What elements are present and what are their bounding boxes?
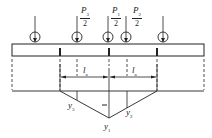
projection-lines [12, 59, 204, 90]
span-label-la-right: la [132, 66, 137, 77]
ordinate-label-y1: y1 [104, 122, 111, 133]
span-label-la-left: la [83, 66, 88, 77]
ordinate-label-y3: y3 [68, 101, 75, 112]
load-arrow-4 [121, 16, 131, 42]
load-arrow-1 [30, 16, 40, 42]
diagram-canvas [0, 0, 212, 138]
label-p1-half: P1 2 [111, 6, 121, 28]
label-p3-half: P3 2 [80, 6, 90, 28]
ordinate-label-y2: y2 [126, 108, 133, 119]
label-p2-half: P2 2 [132, 6, 142, 28]
load-arrow-5 [158, 16, 168, 42]
influence-triangle [60, 91, 157, 118]
